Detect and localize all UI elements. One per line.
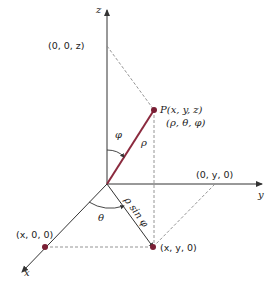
x-axis: [22, 184, 107, 272]
theta-arc: [89, 202, 124, 208]
x-proj-label: (x, 0, 0): [16, 229, 53, 240]
phi-label: φ: [115, 129, 122, 140]
theta-label: θ: [98, 212, 104, 223]
y-proj-label: (0, y, 0): [196, 169, 233, 180]
spherical-coordinates-diagram: z y x (0, 0, z) P(x, y, z) (ρ, θ, φ) (0,…: [0, 0, 274, 286]
point-x-proj: [42, 244, 48, 250]
point-P: [151, 107, 157, 113]
y-axis-label: y: [257, 189, 264, 200]
rho-label: ρ: [140, 137, 147, 148]
z-proj-label: (0, 0, z): [48, 40, 85, 51]
phi-arc: [107, 150, 124, 157]
rho-segment: [107, 110, 154, 184]
x-axis-label: x: [24, 267, 30, 278]
xy-proj-label: (x, y, 0): [160, 242, 197, 253]
z-axis-label: z: [95, 4, 102, 15]
point-xy-proj: [150, 244, 156, 250]
P-spherical-label: (ρ, θ, φ): [166, 117, 206, 128]
P-label: P(x, y, z): [159, 104, 203, 115]
